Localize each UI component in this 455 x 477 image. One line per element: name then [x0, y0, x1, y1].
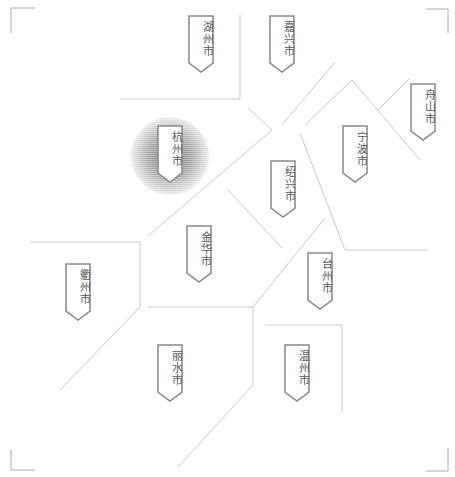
city-label: 绍兴市 [270, 166, 296, 202]
hangzhou-shaoxing-boundary [248, 108, 272, 130]
city-label: 丽水市 [157, 350, 183, 386]
city-tag-quzhou[interactable]: 衢州市 [65, 263, 91, 321]
city-tag-wenzhou[interactable]: 温州市 [284, 344, 310, 402]
corner-bracket-top-right [426, 9, 448, 33]
huzhou-boundary [120, 15, 240, 99]
city-tag-lishui[interactable]: 丽水市 [157, 344, 183, 402]
city-tag-jiaxing[interactable]: 嘉兴市 [269, 15, 295, 73]
zhejiang-city-map: 湖州市 嘉兴市 舟山市 杭州市 宁波市 绍兴市 金华市 衢州市 台州市 丽水市 … [0, 0, 455, 477]
city-label: 温州市 [284, 350, 310, 386]
city-tag-ningbo[interactable]: 宁波市 [342, 125, 368, 183]
city-tag-taizhou[interactable]: 台州市 [307, 252, 333, 310]
city-tag-hangzhou[interactable]: 杭州市 [157, 125, 183, 183]
corner-bracket-top-left [11, 8, 35, 33]
city-label: 嘉兴市 [269, 21, 295, 57]
city-label: 宁波市 [342, 131, 368, 167]
region-boundaries [0, 0, 455, 477]
city-label: 台州市 [307, 258, 333, 294]
city-label: 金华市 [186, 231, 212, 267]
city-tag-huzhou[interactable]: 湖州市 [188, 15, 214, 73]
corner-bracket-bottom-left [11, 450, 35, 470]
city-label: 舟山市 [410, 89, 436, 125]
zhoushan-boundary [378, 78, 410, 110]
city-label: 湖州市 [188, 21, 214, 57]
city-label: 衢州市 [65, 269, 91, 305]
city-tag-shaoxing[interactable]: 绍兴市 [270, 160, 296, 218]
city-label: 杭州市 [157, 131, 183, 167]
city-tag-zhoushan[interactable]: 舟山市 [410, 83, 436, 141]
city-tag-jinhua[interactable]: 金华市 [186, 225, 212, 283]
corner-bracket-bottom-right [426, 448, 448, 471]
